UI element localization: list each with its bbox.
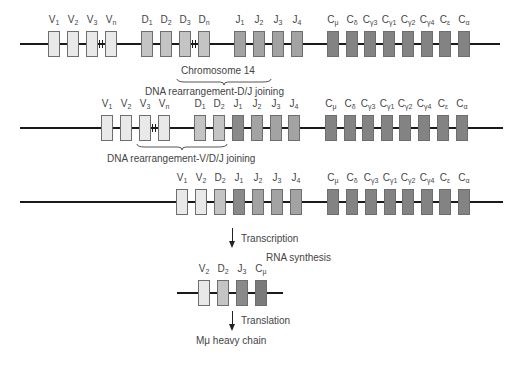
gene-segment-label: J1	[234, 98, 243, 113]
gene-segment-Cepsilon	[439, 189, 451, 215]
gene-segment-label: V2	[68, 14, 79, 29]
sequence-break-mark	[102, 40, 103, 48]
gene-segment-Cgamma1	[384, 189, 396, 215]
gene-segment-J2	[252, 189, 264, 215]
gene-segment-label: Cμ	[327, 14, 338, 29]
gene-segment-label: Cγ3	[363, 14, 378, 29]
gene-segment-label: Cγ4	[420, 14, 435, 29]
gene-segment-label: Cμ	[327, 172, 338, 187]
gene-segment-J2	[253, 31, 265, 57]
gene-segment-Cgamma1	[383, 31, 395, 57]
gene-segment-label: V3	[87, 14, 98, 29]
gene-segment-Vn	[158, 115, 170, 141]
translation-label: Translation	[241, 315, 290, 327]
gene-segment-label: D3	[179, 14, 190, 29]
gene-segment-Calpha	[458, 31, 470, 57]
gene-segment-label: V2	[199, 263, 210, 278]
chromosome-label: Chromosome 14	[181, 65, 255, 77]
gene-segment-label: D1	[194, 98, 205, 113]
gene-segment-Vn	[105, 31, 117, 57]
gene-segment-D2	[160, 31, 172, 57]
gene-segment-V2	[120, 115, 132, 141]
gene-segment-J4	[291, 31, 303, 57]
gene-segment-V2	[198, 280, 210, 306]
gene-segment-Dn	[198, 31, 210, 57]
translation-arrow	[232, 311, 233, 325]
gene-segment-V1	[48, 31, 60, 57]
gene-segment-J3	[271, 189, 283, 215]
gene-segment-label: V1	[177, 172, 188, 187]
gene-segment-V2	[195, 189, 207, 215]
sequence-break-mark	[99, 40, 100, 48]
dna-strand-rna	[177, 292, 283, 294]
gene-segment-Cgamma2	[402, 189, 414, 215]
gene-segment-Calpha	[456, 115, 468, 141]
gene-segment-label: V2	[121, 98, 132, 113]
gene-segment-label: J4	[290, 98, 299, 113]
gene-segment-D2	[214, 189, 226, 215]
gene-segment-label: Dn	[198, 14, 209, 29]
gene-segment-Cgamma4	[421, 31, 433, 57]
gene-segment-D3	[179, 31, 191, 57]
gene-segment-label: J3	[272, 98, 281, 113]
gene-segment-label: D2	[213, 98, 224, 113]
gene-segment-label: Cγ3	[364, 172, 379, 187]
gene-segment-Cmu	[327, 31, 339, 57]
gene-segment-Cepsilon	[439, 31, 451, 57]
gene-segment-Cgamma2	[399, 115, 411, 141]
gene-segment-label: Cγ2	[398, 98, 413, 113]
gene-segment-Cgamma4	[421, 189, 433, 215]
sequence-break-mark	[195, 40, 196, 48]
gene-segment-label: D2	[160, 14, 171, 29]
gene-segment-label: Cγ1	[382, 14, 397, 29]
gene-segment-label: D2	[217, 263, 228, 278]
gene-segment-label: Cδ	[344, 98, 355, 113]
gene-segment-V1	[101, 115, 113, 141]
gene-segment-J4	[290, 189, 302, 215]
dj-joining-label: DNA rearrangement-D/J joining	[145, 86, 284, 98]
gene-segment-label: V1	[49, 14, 60, 29]
gene-segment-label: V1	[102, 98, 113, 113]
vdj-joining-label: DNA rearrangement-V/D/J joining	[107, 153, 255, 165]
gene-segment-J4	[288, 115, 300, 141]
gene-segment-V3	[139, 115, 151, 141]
gene-segment-label: Cε	[440, 14, 450, 29]
gene-segment-Cgamma1	[381, 115, 393, 141]
gene-segment-Cdelta	[346, 31, 358, 57]
gene-segment-label: J4	[292, 172, 301, 187]
gene-segment-label: Cδ	[346, 172, 357, 187]
transcription-arrowhead-icon	[229, 241, 235, 248]
gene-segment-D1	[194, 115, 206, 141]
gene-segment-V1	[176, 189, 188, 215]
gene-segment-label: Cγ4	[420, 172, 435, 187]
heavy-chain-label: Mμ heavy chain	[196, 335, 266, 347]
gene-segment-label: Cμ	[325, 98, 336, 113]
gene-segment-Cdelta	[346, 189, 358, 215]
gene-segment-label: Cγ3	[361, 98, 376, 113]
transcription-label: Transcription	[241, 233, 298, 245]
gene-segment-label: V2	[196, 172, 207, 187]
gene-segment-V3	[86, 31, 98, 57]
gene-segment-label: Cα	[458, 172, 469, 187]
gene-segment-Cgamma4	[418, 115, 430, 141]
gene-segment-label: Cα	[458, 14, 469, 29]
gene-segment-label: Cμ	[255, 263, 266, 278]
gene-segment-label: Cγ1	[380, 98, 395, 113]
gene-segment-J3	[272, 31, 284, 57]
gene-segment-label: Cγ1	[383, 172, 398, 187]
sequence-break-mark	[152, 124, 153, 132]
gene-segment-J1	[233, 189, 245, 215]
gene-segment-label: Vn	[106, 14, 117, 29]
gene-segment-label: Cδ	[346, 14, 357, 29]
sequence-break-mark	[155, 124, 156, 132]
rna-synthesis-label: RNA synthesis	[266, 252, 331, 264]
transcription-arrow	[232, 228, 233, 242]
gene-segment-Cgamma3	[362, 115, 374, 141]
gene-segment-Cdelta	[344, 115, 356, 141]
gene-segment-Cmu	[255, 280, 267, 306]
gene-segment-label: J3	[238, 263, 247, 278]
chromosome-brace	[176, 78, 272, 86]
gene-segment-label: Cγ2	[401, 14, 416, 29]
gene-segment-label: J3	[274, 14, 283, 29]
gene-segment-label: J2	[254, 172, 263, 187]
